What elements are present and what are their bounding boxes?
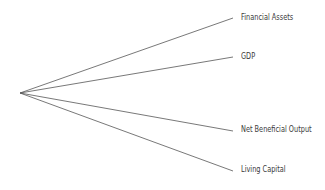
branch-line-gdp <box>20 57 233 93</box>
label-financial-assets: Financial Assets <box>241 13 293 23</box>
branch-line-living-capital <box>20 93 233 171</box>
branch-diagram <box>0 0 325 190</box>
branch-line-financial-assets <box>20 18 233 93</box>
branch-line-net-beneficial-output <box>20 93 233 131</box>
label-net-beneficial-output: Net Beneficial Output <box>241 125 312 135</box>
label-living-capital: Living Capital <box>241 165 286 175</box>
label-gdp: GDP <box>241 52 255 62</box>
